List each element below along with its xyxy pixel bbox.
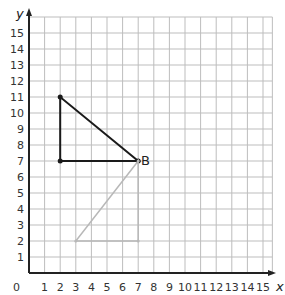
y-tick-label: 9 — [17, 123, 24, 136]
vertex-point — [137, 240, 140, 243]
y-tick-label: 6 — [17, 171, 24, 184]
x-tick-label: 7 — [135, 281, 142, 294]
vertex-point — [58, 159, 63, 164]
y-tick-label: 15 — [10, 27, 24, 40]
x-tick-label: 14 — [240, 281, 254, 294]
shapes-layer — [58, 95, 141, 243]
x-tick-label: 4 — [88, 281, 95, 294]
y-axis-arrow-icon — [26, 8, 32, 16]
x-tick-label: 13 — [225, 281, 239, 294]
origin-label: 0 — [13, 281, 20, 294]
y-tick-label: 11 — [10, 91, 24, 104]
x-axis-label: x — [275, 279, 284, 294]
y-axis-label: y — [15, 6, 24, 21]
x-tick-label: 12 — [209, 281, 223, 294]
vertex-point — [137, 160, 140, 163]
point-b-label: B — [141, 153, 150, 168]
x-tick-label: 5 — [104, 281, 111, 294]
y-tick-label: 12 — [10, 75, 24, 88]
y-tick-label: 2 — [17, 235, 24, 248]
coordinate-plane: 1234567891011121314151234567891011121314… — [0, 0, 285, 295]
y-tick-label: 13 — [10, 59, 24, 72]
y-tick-label: 8 — [17, 139, 24, 152]
x-tick-label: 3 — [72, 281, 79, 294]
x-tick-label: 15 — [256, 281, 270, 294]
y-tick-label: 1 — [17, 251, 24, 264]
grid-lines — [29, 17, 272, 273]
y-tick-label: 4 — [17, 203, 24, 216]
vertex-point — [74, 240, 77, 243]
x-tick-label: 2 — [57, 281, 64, 294]
x-tick-label: 1 — [41, 281, 48, 294]
y-tick-label: 5 — [17, 187, 24, 200]
x-tick-label: 8 — [150, 281, 157, 294]
y-tick-label: 14 — [10, 43, 24, 56]
y-tick-label: 10 — [10, 107, 24, 120]
x-tick-label: 10 — [178, 281, 192, 294]
x-tick-label: 11 — [194, 281, 208, 294]
x-tick-label: 6 — [119, 281, 126, 294]
x-tick-label: 9 — [166, 281, 173, 294]
axes — [26, 8, 276, 276]
vertex-point — [58, 95, 63, 100]
y-tick-label: 7 — [17, 155, 24, 168]
y-tick-label: 3 — [17, 219, 24, 232]
